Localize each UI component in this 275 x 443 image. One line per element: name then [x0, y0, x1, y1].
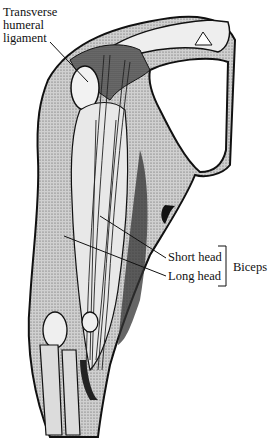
arm-illustration	[0, 0, 275, 443]
label-biceps: Biceps	[233, 261, 267, 274]
label-short-head: Short head	[168, 251, 222, 264]
label-transverse-humeral-ligament: Transverse humeral ligament	[3, 6, 73, 45]
label-long-head: Long head	[168, 270, 221, 283]
